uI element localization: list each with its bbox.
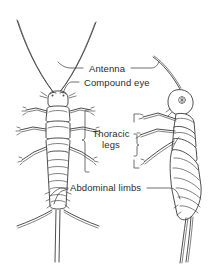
thoracic-legs-bracket-right bbox=[134, 114, 139, 168]
label-abdominal-limbs: Abdominal limbs bbox=[70, 182, 141, 193]
dorsal-abdomen bbox=[47, 151, 69, 209]
label-antenna: Antenna bbox=[89, 63, 125, 74]
dorsal-view-insect bbox=[16, 20, 100, 262]
lateral-head bbox=[166, 90, 193, 116]
anatomy-figure: Antenna Compound eye Thoraciclegs Abdomi… bbox=[0, 0, 220, 270]
label-thoracic-legs: Thoraciclegs bbox=[91, 128, 131, 150]
lateral-caudal-filaments bbox=[180, 217, 193, 263]
dorsal-thorax bbox=[46, 106, 70, 156]
label-thoracic-legs-line1: Thoracic bbox=[92, 128, 129, 139]
dorsal-caudal-filaments bbox=[17, 210, 99, 262]
lateral-antenna bbox=[153, 56, 181, 89]
compound-eye-leader-line bbox=[63, 82, 79, 93]
label-thoracic-legs-line2: legs bbox=[102, 139, 120, 150]
dorsal-head bbox=[40, 91, 76, 108]
thoracic-legs-bracket-left bbox=[82, 110, 89, 172]
label-compound-eye: Compound eye bbox=[84, 77, 150, 88]
